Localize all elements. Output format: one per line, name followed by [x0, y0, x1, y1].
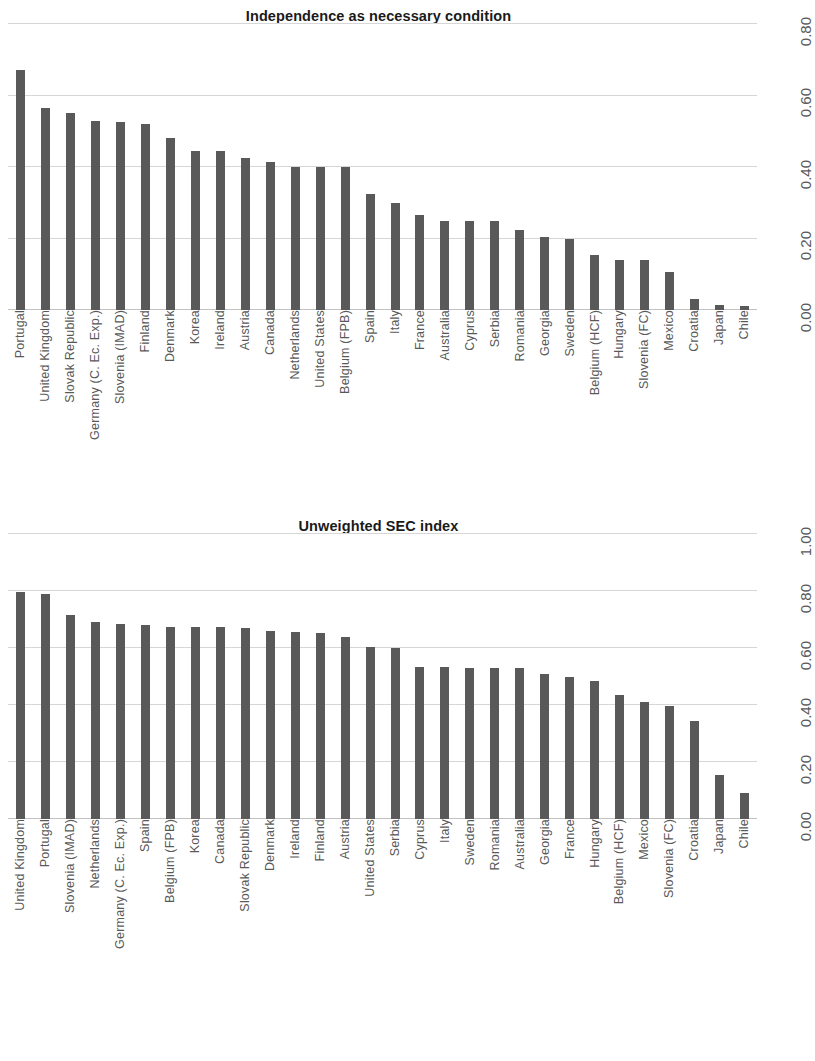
x-axis-tick-label: France [414, 310, 427, 350]
y-axis-tick-label: 0.80 [798, 584, 813, 613]
x-axis-label-slot: Hungary [582, 819, 607, 868]
x-axis-tick-label: Austria [239, 310, 252, 350]
x-axis-tick-label: Italy [389, 310, 402, 334]
x-axis-tick-label: United Kingdom [14, 819, 27, 911]
bar-slot [707, 24, 732, 310]
x-axis-tick-label: Sweden [564, 310, 577, 356]
bar [266, 162, 275, 310]
bar-slot [657, 534, 682, 819]
x-axis-label-slot: United Kingdom [8, 819, 33, 911]
chart-2-title: Unweighted SEC index [0, 510, 815, 534]
bar [515, 668, 524, 819]
bar-slot [383, 24, 408, 310]
bar [241, 158, 250, 310]
bar [465, 668, 474, 819]
bar-slot [408, 24, 433, 310]
x-axis-tick-label: Australia [514, 819, 527, 869]
x-axis-label-slot: United States [358, 819, 383, 897]
bar-slot [532, 534, 557, 819]
bar-slot [682, 24, 707, 310]
bar [191, 627, 200, 819]
y-axis-tick-text: 0.60 [798, 88, 813, 117]
x-axis-tick-label: Italy [439, 819, 452, 843]
x-axis-label-slot: Japan [707, 819, 732, 854]
x-axis-tick-label: Sweden [464, 819, 477, 865]
bar [41, 594, 50, 819]
x-axis-label-slot: Serbia [383, 819, 408, 856]
bar [291, 632, 300, 819]
x-axis-label-slot: Romania [507, 310, 532, 361]
bar-slot [183, 534, 208, 819]
bar [615, 260, 624, 310]
x-axis-label-slot: France [408, 310, 433, 350]
bar-slot [83, 534, 108, 819]
bar-slot [532, 24, 557, 310]
x-axis-label-slot: Romania [482, 819, 507, 870]
y-axis-tick-label: 0.60 [798, 641, 813, 670]
x-axis-label-slot: Australia [432, 310, 457, 360]
bar [116, 122, 125, 310]
bar [615, 695, 624, 819]
bar [191, 151, 200, 310]
x-axis-tick-label: Belgium (HCF) [613, 819, 626, 904]
bar [740, 793, 749, 819]
x-axis-tick-label: Korea [189, 819, 202, 853]
x-axis-tick-label: Chile [738, 310, 751, 340]
bar [16, 70, 25, 310]
y-axis-tick-text: 1.00 [798, 527, 813, 556]
x-axis-tick-label: Austria [339, 819, 352, 859]
bar [291, 167, 300, 310]
x-axis-label-slot: Finland [308, 819, 333, 861]
y-axis-tick-text: 0.40 [798, 160, 813, 189]
bar [565, 677, 574, 820]
bar [341, 167, 350, 310]
bar [91, 121, 100, 310]
chart-2-bars [8, 534, 757, 819]
x-axis-tick-label: Portugal [39, 819, 52, 867]
x-axis-tick-label: Canada [264, 310, 277, 355]
bar-slot [233, 534, 258, 819]
bar-slot [283, 534, 308, 819]
x-axis-tick-label: France [564, 819, 577, 859]
bar [415, 667, 424, 819]
x-axis-label-slot: Sweden [557, 310, 582, 356]
x-axis-tick-label: Australia [439, 310, 452, 360]
bar-slot [632, 24, 657, 310]
x-axis-label-slot: Croatia [682, 819, 707, 861]
bar [66, 615, 75, 819]
bar-slot [482, 24, 507, 310]
bar-slot [732, 24, 757, 310]
bar-slot [632, 534, 657, 819]
x-axis-tick-label: Netherlands [289, 310, 302, 380]
x-axis-tick-label: United States [314, 310, 327, 388]
bar-slot [158, 534, 183, 819]
x-axis-tick-label: Hungary [613, 310, 626, 359]
x-axis-label-slot: Portugal [33, 819, 58, 867]
bar [91, 622, 100, 819]
x-axis-label-slot: Mexico [657, 310, 682, 351]
x-axis-tick-label: Canada [214, 819, 227, 864]
bar [216, 627, 225, 819]
bar [166, 138, 175, 310]
bar [590, 681, 599, 819]
y-axis-tick-label: 1.00 [798, 527, 813, 556]
bar-slot [108, 24, 133, 310]
bar-slot [333, 24, 358, 310]
x-axis-tick-label: Hungary [589, 819, 602, 868]
x-axis-tick-label: Slovak Republic [64, 310, 77, 403]
x-axis-tick-label: Chile [738, 819, 751, 849]
x-axis-label-slot: Chile [732, 310, 757, 340]
bar-slot [408, 534, 433, 819]
x-axis-tick-label: Slovenia (IMAD) [64, 819, 77, 913]
bar [565, 239, 574, 311]
bar-slot [707, 534, 732, 819]
y-axis-tick-text: 0.20 [798, 755, 813, 784]
x-axis-tick-label: Belgium (FPB) [164, 819, 177, 903]
bar-slot [233, 24, 258, 310]
x-axis-label-slot: Slovenia (FC) [632, 310, 657, 389]
x-axis-label-slot: Ireland [208, 310, 233, 350]
x-axis-tick-label: Serbia [389, 819, 402, 856]
bar-slot [607, 24, 632, 310]
bar [166, 627, 175, 819]
chart-1-plot-area: 0.000.200.400.600.80 [0, 24, 815, 310]
